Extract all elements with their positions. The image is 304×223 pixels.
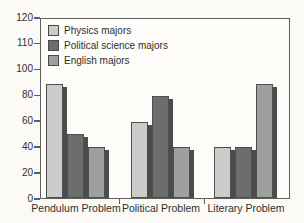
- y-tick-label: 120: [0, 12, 33, 23]
- bar-slot: [235, 147, 256, 198]
- y-tick-label: 20: [0, 167, 33, 178]
- bar: [88, 147, 105, 198]
- y-tick-label: 110: [0, 37, 33, 48]
- bar-slot: [152, 96, 173, 198]
- bar-slot: [173, 147, 194, 198]
- y-tick-label: 80: [0, 89, 33, 100]
- x-axis-label: Political Problem: [122, 202, 200, 214]
- y-tick-mark: [34, 43, 40, 45]
- bar: [256, 84, 273, 198]
- x-axis-label: Pendulum Problem: [31, 202, 120, 214]
- y-tick-label: 100: [0, 63, 33, 74]
- legend-item: Political science majors: [48, 40, 168, 51]
- y-tick-mark: [34, 146, 40, 148]
- bar: [173, 147, 190, 198]
- legend-swatch: [48, 25, 59, 36]
- y-tick-mark: [34, 17, 40, 19]
- bar-slot: [131, 122, 152, 198]
- group-separator-tick: [119, 199, 121, 204]
- bar-group: [46, 84, 109, 198]
- group-separator-tick: [204, 199, 206, 204]
- bar-group: [214, 84, 277, 198]
- bar: [46, 84, 63, 198]
- legend-item: Physics majors: [48, 25, 168, 36]
- bar-shadow: [273, 87, 277, 198]
- y-tick-mark: [34, 69, 40, 71]
- bar: [152, 96, 169, 198]
- legend-swatch: [48, 40, 59, 51]
- legend: Physics majorsPolitical science majorsEn…: [48, 25, 168, 66]
- bar: [235, 147, 252, 198]
- legend-label: Physics majors: [59, 25, 131, 36]
- legend-item: English majors: [48, 55, 168, 66]
- legend-label: English majors: [59, 55, 130, 66]
- y-tick-label: 40: [0, 141, 33, 152]
- x-axis-label: Literary Problem: [207, 202, 284, 214]
- y-tick-mark: [34, 172, 40, 174]
- bar-group: [131, 96, 194, 198]
- legend-swatch: [48, 55, 59, 66]
- y-tick-label: 60: [0, 115, 33, 126]
- bar: [131, 122, 148, 198]
- bar-slot: [46, 84, 67, 198]
- y-tick-mark: [34, 95, 40, 97]
- y-tick-label: 0: [0, 193, 33, 204]
- bar-slot: [214, 147, 235, 198]
- bar-shadow: [190, 150, 194, 198]
- y-tick-mark: [34, 120, 40, 122]
- bar-shadow: [105, 150, 109, 198]
- bar: [67, 134, 84, 198]
- plot-area: Physics majorsPolitical science majorsEn…: [40, 18, 290, 199]
- bar: [214, 147, 231, 198]
- y-tick-mark: [34, 198, 40, 200]
- bar-slot: [88, 147, 109, 198]
- bar-slot: [256, 84, 277, 198]
- legend-label: Political science majors: [59, 40, 168, 51]
- scanned-bar-chart-figure: Physics majorsPolitical science majorsEn…: [0, 0, 304, 223]
- bar-slot: [67, 134, 88, 198]
